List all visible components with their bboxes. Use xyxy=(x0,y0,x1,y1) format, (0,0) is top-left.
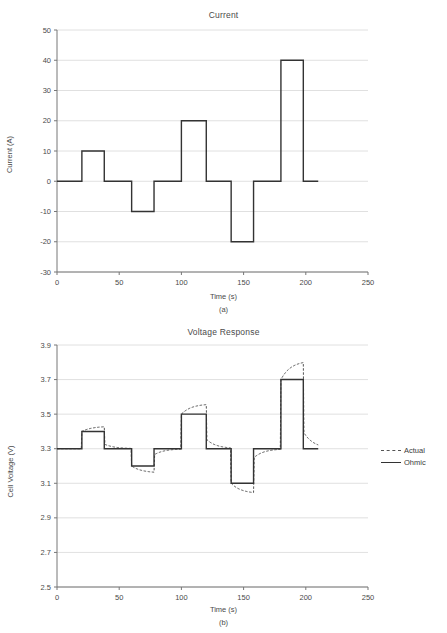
svg-text:100: 100 xyxy=(175,593,188,602)
legend: Actual Ohmic xyxy=(381,445,426,469)
svg-text:2.7: 2.7 xyxy=(41,548,51,557)
svg-text:0: 0 xyxy=(55,593,59,602)
plot-area-voltage-response: 2.52.72.93.13.33.53.73.9050100150200250 xyxy=(0,315,447,615)
svg-text:20: 20 xyxy=(43,116,51,125)
panel-caption-b: (b) xyxy=(0,618,447,627)
svg-text:-20: -20 xyxy=(40,237,51,246)
figure-panel-a: Current Current (A) -30-20-1001020304050… xyxy=(0,0,447,318)
svg-text:50: 50 xyxy=(115,593,123,602)
legend-item-ohmic: Ohmic xyxy=(381,457,426,469)
svg-text:3.9: 3.9 xyxy=(41,341,51,350)
svg-text:2.5: 2.5 xyxy=(41,583,51,592)
svg-text:200: 200 xyxy=(300,278,313,287)
legend-item-actual: Actual xyxy=(381,445,426,457)
x-axis-label-voltage: Time (s) xyxy=(0,605,447,614)
svg-text:40: 40 xyxy=(43,56,51,65)
svg-text:200: 200 xyxy=(300,593,313,602)
dashed-line-icon xyxy=(381,447,401,455)
svg-text:-10: -10 xyxy=(40,207,51,216)
svg-text:-30: -30 xyxy=(40,268,51,277)
figure-panel-b: Voltage Response Cell Voltage (V) 2.52.7… xyxy=(0,315,447,633)
svg-text:3.3: 3.3 xyxy=(41,444,51,453)
legend-label-ohmic: Ohmic xyxy=(404,458,426,468)
svg-text:0: 0 xyxy=(55,278,59,287)
legend-label-actual: Actual xyxy=(404,446,425,456)
svg-text:3.1: 3.1 xyxy=(41,479,51,488)
svg-text:250: 250 xyxy=(362,278,375,287)
svg-text:150: 150 xyxy=(237,593,250,602)
svg-text:10: 10 xyxy=(43,147,51,156)
svg-text:50: 50 xyxy=(43,26,51,35)
svg-text:30: 30 xyxy=(43,86,51,95)
plot-area-current: -30-20-1001020304050050100150200250 xyxy=(0,0,447,300)
svg-text:0: 0 xyxy=(47,177,51,186)
svg-text:250: 250 xyxy=(362,593,375,602)
svg-text:3.7: 3.7 xyxy=(41,375,51,384)
panel-caption-a: (a) xyxy=(0,305,447,314)
svg-text:2.9: 2.9 xyxy=(41,513,51,522)
svg-text:3.5: 3.5 xyxy=(41,410,51,419)
solid-line-icon xyxy=(381,459,401,467)
x-axis-label-current: Time (s) xyxy=(0,292,447,301)
svg-text:50: 50 xyxy=(115,278,123,287)
svg-text:100: 100 xyxy=(175,278,188,287)
svg-text:150: 150 xyxy=(237,278,250,287)
